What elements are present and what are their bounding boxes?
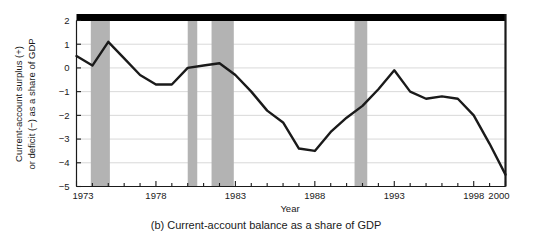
y-axis-title-line2: or deficit (−) as a share of GDP [26,38,37,169]
x-tick-label: 1973 [73,190,94,201]
figure-caption: (b) Current-account balance as a share o… [151,219,382,231]
y-tick-label: 2 [64,15,69,26]
y-axis-tick-labels: 210−1−2−3−4−5 [59,15,70,192]
x-axis-tick-labels: 1973197819831988199319982000 [73,190,510,201]
x-axis-title: Year [280,203,299,214]
y-axis-title-line1: Current-account surplus (+) [13,46,24,162]
y-tick-label: 1 [64,39,69,50]
series-line [77,42,506,175]
recession-band [212,21,234,187]
grid-lines [77,44,506,186]
data-line-current-account [77,42,506,175]
x-tick-label: 1993 [384,190,405,201]
y-axis-title: Current-account surplus (+) or deficit (… [13,38,37,169]
y-tick-label: 0 [64,62,69,73]
x-tick-label: 1988 [304,190,325,201]
x-tick-label: 2000 [488,190,509,201]
x-tick-label: 1983 [225,190,246,201]
y-tick-label: −5 [59,181,70,192]
chart-canvas: 210−1−2−3−4−5 19731978198319881993199820… [0,0,533,233]
plot-frame [77,14,506,187]
top-border-bar [77,14,506,21]
top-black-bar [77,14,506,21]
y-tick-label: −2 [59,110,70,121]
x-tick-label: 1978 [145,190,166,201]
y-tick-label: −1 [59,86,70,97]
x-tick-label: 1998 [463,190,484,201]
y-tick-label: −4 [59,157,70,168]
figure-current-account-balance: 210−1−2−3−4−5 19731978198319881993199820… [0,0,533,233]
y-tick-label: −3 [59,133,70,144]
recession-bands [91,21,367,187]
recession-band [188,21,198,187]
axis-ticks [77,21,506,187]
